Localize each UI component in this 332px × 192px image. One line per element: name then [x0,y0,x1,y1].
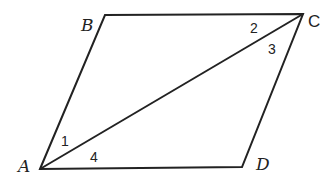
vertex-label-c: C [308,12,320,31]
angle-label-3: 3 [268,41,276,57]
diagonal-AC [40,14,303,169]
vertex-label-b: B [80,15,94,35]
vertex-label-a: A [16,156,30,176]
angle-label-1: 1 [61,133,69,149]
vertex-label-d: D [255,154,270,174]
parallelogram-diagram: B C A D 2 3 1 4 [0,0,332,192]
angle-label-2: 2 [250,20,258,36]
angle-label-4: 4 [90,149,98,165]
